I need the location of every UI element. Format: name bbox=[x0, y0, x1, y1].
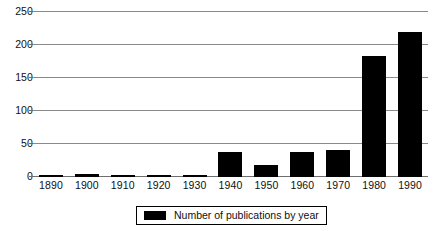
x-tick-label-5: 1940 bbox=[213, 179, 249, 191]
bar-1940 bbox=[218, 152, 242, 177]
x-axis: 1890 1900 1910 1920 1930 1940 1950 1960 … bbox=[33, 179, 428, 195]
bar-1960 bbox=[290, 152, 314, 177]
x-tick-label-4: 1930 bbox=[177, 179, 213, 191]
x-tick-label-2: 1910 bbox=[105, 179, 141, 191]
bar-chart: 250 200 150 100 50 0 bbox=[0, 0, 439, 231]
bar-slot-0 bbox=[33, 11, 69, 177]
bar-1890 bbox=[39, 175, 63, 177]
bar-slot-5 bbox=[213, 11, 249, 177]
legend-label: Number of publications by year bbox=[174, 210, 319, 221]
x-tick-label-10: 1990 bbox=[392, 179, 428, 191]
bar-1930 bbox=[183, 175, 207, 177]
bar-1950 bbox=[254, 165, 278, 177]
bar-slot-7 bbox=[284, 11, 320, 177]
x-tick-label-9: 1980 bbox=[356, 179, 392, 191]
x-tick-label-0: 1890 bbox=[33, 179, 69, 191]
bar-slot-9 bbox=[356, 11, 392, 177]
bar-1920 bbox=[147, 175, 171, 177]
x-tick-label-8: 1970 bbox=[320, 179, 356, 191]
bar-slot-10 bbox=[392, 11, 428, 177]
x-tick-label-1: 1900 bbox=[69, 179, 105, 191]
bar-1980 bbox=[362, 56, 386, 177]
y-axis: 250 200 150 100 50 0 bbox=[0, 0, 33, 231]
bar-slot-1 bbox=[69, 11, 105, 177]
x-tick-label-7: 1960 bbox=[284, 179, 320, 191]
bar-slot-4 bbox=[177, 11, 213, 177]
x-tick-label-3: 1920 bbox=[141, 179, 177, 191]
bars-layer bbox=[33, 11, 428, 177]
legend-swatch-icon bbox=[144, 211, 166, 220]
x-tick-label-6: 1950 bbox=[249, 179, 285, 191]
bar-slot-8 bbox=[320, 11, 356, 177]
bar-slot-3 bbox=[141, 11, 177, 177]
bar-1990 bbox=[398, 32, 422, 177]
bar-1910 bbox=[111, 175, 135, 177]
bar-slot-6 bbox=[249, 11, 285, 177]
bar-1970 bbox=[326, 150, 350, 177]
bar-1900 bbox=[75, 174, 99, 177]
legend: Number of publications by year bbox=[136, 206, 327, 225]
bar-slot-2 bbox=[105, 11, 141, 177]
